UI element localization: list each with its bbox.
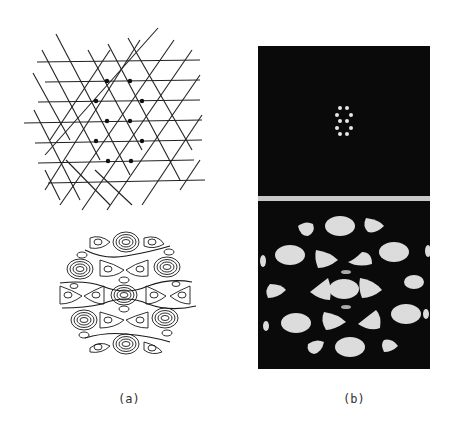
figure: (a) (b) bbox=[0, 0, 450, 426]
line-lattice-diagram bbox=[0, 0, 225, 220]
panel-label-b: (b) bbox=[343, 392, 365, 406]
panel-label-a: (a) bbox=[118, 392, 140, 406]
contour-map-diagram bbox=[40, 220, 220, 370]
separator-strip bbox=[258, 196, 430, 201]
diffraction-photo bbox=[258, 46, 430, 369]
